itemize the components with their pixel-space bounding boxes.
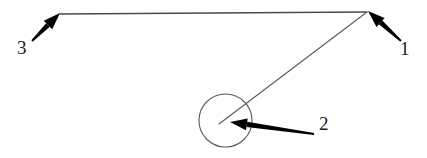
diagram-canvas: 1 2 3 [0,0,427,158]
callout-label-2: 2 [319,114,329,133]
callout-arrow-1 [368,11,402,42]
diagram-vector-layer [0,0,427,158]
diagonal-line [219,12,367,124]
callout-arrow-2 [230,118,314,134]
callout-label-3: 3 [17,38,27,57]
horizontal-line [60,12,367,14]
callout-arrow-3 [31,13,60,42]
callout-label-1: 1 [400,39,410,58]
